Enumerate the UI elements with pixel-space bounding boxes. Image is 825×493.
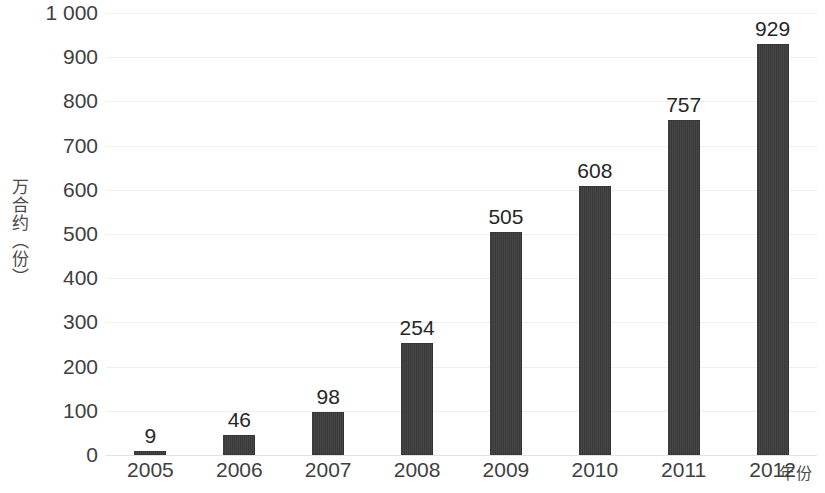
x-axis-tick-label: 2006 <box>216 458 263 482</box>
y-axis-tick-label: 400 <box>10 266 98 290</box>
bar-2012 <box>757 44 789 455</box>
bar-value-label: 757 <box>666 93 701 117</box>
bar-2008 <box>401 343 433 455</box>
bar-2010 <box>579 186 611 455</box>
gridline <box>106 190 817 191</box>
x-axis-tick-labels: 年份 20052006200720082009201020112012 <box>0 458 825 493</box>
gridline <box>106 278 817 279</box>
bar-2009 <box>490 232 522 455</box>
y-axis-tick-labels: 01002003004005006007008009001 000 <box>0 0 98 493</box>
y-axis-tick-label: 900 <box>10 45 98 69</box>
bar-2005 <box>134 451 166 455</box>
plot-area: 94698254505608757929 <box>106 13 817 455</box>
bar-2007 <box>312 412 344 455</box>
gridline <box>106 234 817 235</box>
y-axis-tick-label: 200 <box>10 355 98 379</box>
x-axis-tick-label: 2012 <box>749 458 796 482</box>
bar-chart: 万合约（份） 01002003004005006007008009001 000… <box>0 0 825 493</box>
bar-value-label: 254 <box>400 316 435 340</box>
bar-2006 <box>223 435 255 455</box>
gridline <box>106 411 817 412</box>
bar-value-label: 46 <box>228 408 251 432</box>
gridline <box>106 57 817 58</box>
bar-value-label: 505 <box>488 205 523 229</box>
y-axis-tick-label: 700 <box>10 134 98 158</box>
x-axis-tick-label: 2008 <box>394 458 441 482</box>
y-axis-tick-label: 100 <box>10 399 98 423</box>
y-axis-tick-label: 1 000 <box>10 1 98 25</box>
gridline <box>106 101 817 102</box>
x-axis-tick-label: 2005 <box>127 458 174 482</box>
y-axis-tick-label: 300 <box>10 310 98 334</box>
x-axis-tick-label: 2011 <box>661 458 706 482</box>
bar-value-label: 98 <box>317 385 340 409</box>
gridline <box>106 13 817 14</box>
gridline <box>106 367 817 368</box>
bar-2011 <box>668 120 700 455</box>
x-axis-tick-label: 2007 <box>305 458 352 482</box>
x-axis-tick-label: 2010 <box>571 458 618 482</box>
bar-value-label: 929 <box>755 17 790 41</box>
gridline <box>106 322 817 323</box>
gridline <box>106 146 817 147</box>
x-axis-tick-label: 2009 <box>483 458 530 482</box>
bar-value-label: 608 <box>577 159 612 183</box>
y-axis-tick-label: 800 <box>10 89 98 113</box>
gridline <box>106 455 817 456</box>
bar-value-label: 9 <box>145 424 157 448</box>
y-axis-tick-label: 600 <box>10 178 98 202</box>
y-axis-tick-label: 500 <box>10 222 98 246</box>
